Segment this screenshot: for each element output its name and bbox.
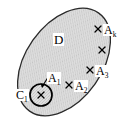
label-subregion-c1: C1 [15, 89, 29, 101]
label-point-ak: Ak [103, 24, 117, 36]
label-point-a3: A3 [95, 65, 109, 77]
diagram-canvas [0, 0, 129, 125]
region-d-ellipse [0, 0, 129, 125]
label-point-a1: A1 [47, 72, 61, 84]
set-diagram-figure: D Ak A3 A2 A1 C1 [0, 0, 129, 125]
label-point-a2: A2 [74, 80, 88, 92]
label-region-d: D [53, 33, 64, 46]
